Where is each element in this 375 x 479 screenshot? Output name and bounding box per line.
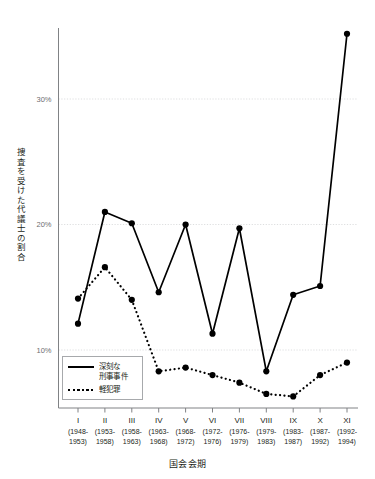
x-tick-sublabel: (1953- [95, 428, 116, 436]
legend-item-serious-label: 深刻な刑事事件 [99, 362, 128, 382]
data-point [317, 283, 323, 289]
x-tick-label: IV [155, 416, 163, 425]
chart-figure: 捜査を受けた代議士の割合 10%20%30%I(1948-1953)II(195… [0, 0, 375, 479]
x-axis-title: 国会会期 [0, 457, 375, 470]
x-tick-label: XI [343, 416, 351, 425]
data-point [263, 368, 269, 374]
data-point [129, 220, 135, 226]
x-tick-label: VII [235, 416, 245, 425]
x-tick-sublabel: 1994) [338, 438, 356, 446]
data-point [344, 31, 350, 37]
legend-item-minor-label: 軽犯罪 [99, 385, 121, 395]
legend-dotted-line-icon [68, 385, 94, 395]
data-point [129, 297, 135, 303]
data-point [290, 393, 296, 399]
x-tick-label: X [317, 416, 323, 425]
x-tick-sublabel: (1976- [229, 428, 250, 436]
data-point [183, 221, 189, 227]
x-tick-sublabel: 1987) [284, 438, 302, 446]
data-point [209, 331, 215, 337]
data-point [263, 391, 269, 397]
x-tick-label: II [103, 416, 107, 425]
x-tick-label: V [183, 416, 189, 425]
x-tick-sublabel: 1976) [204, 438, 222, 446]
data-point [317, 372, 323, 378]
x-tick-label: VIII [260, 416, 272, 425]
data-point [156, 289, 162, 295]
chart-legend: 深刻な刑事事件 軽犯罪 [62, 356, 143, 400]
data-point [183, 364, 189, 370]
legend-solid-line-icon [68, 362, 94, 372]
x-tick-sublabel: (1968- [175, 428, 196, 436]
legend-item-serious: 深刻な刑事事件 [68, 362, 128, 382]
y-tick-label: 10% [36, 346, 51, 355]
y-tick-label: 30% [36, 95, 51, 104]
x-tick-sublabel: 1992) [311, 438, 329, 446]
data-point [344, 359, 350, 365]
data-point [156, 368, 162, 374]
x-tick-sublabel: (1979- [256, 428, 277, 436]
line-chart-plot: 10%20%30%I(1948-1953)II(1953-1958)III(19… [0, 0, 375, 479]
y-tick-label: 20% [36, 220, 51, 229]
x-tick-sublabel: (1983- [283, 428, 304, 436]
x-tick-sublabel: 1983) [257, 438, 275, 446]
x-tick-sublabel: (1948- [68, 428, 89, 436]
x-tick-label: III [128, 416, 135, 425]
series-line [78, 34, 347, 372]
x-tick-sublabel: (1963- [149, 428, 170, 436]
x-tick-sublabel: (1987- [310, 428, 331, 436]
data-point [102, 264, 108, 270]
x-tick-sublabel: 1979) [230, 438, 248, 446]
x-tick-label: VI [209, 416, 217, 425]
x-tick-sublabel: 1968) [150, 438, 168, 446]
data-point [209, 372, 215, 378]
x-tick-label: I [77, 416, 79, 425]
x-tick-sublabel: (1972- [202, 428, 223, 436]
x-tick-sublabel: 1953) [69, 438, 87, 446]
x-tick-label: IX [289, 416, 297, 425]
data-point [75, 295, 81, 301]
data-point [290, 292, 296, 298]
data-point [236, 225, 242, 231]
x-tick-sublabel: (1992- [337, 428, 358, 436]
x-tick-sublabel: 1972) [177, 438, 195, 446]
data-point [75, 321, 81, 327]
data-point [102, 209, 108, 215]
x-tick-sublabel: 1958) [96, 438, 114, 446]
x-tick-sublabel: 1963) [123, 438, 141, 446]
data-point [236, 380, 242, 386]
legend-item-minor: 軽犯罪 [68, 385, 121, 395]
x-tick-sublabel: (1958- [122, 428, 143, 436]
